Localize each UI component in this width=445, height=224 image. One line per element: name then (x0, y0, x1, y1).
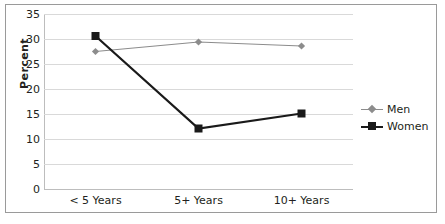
data-point-men (92, 48, 99, 55)
data-point-men (298, 42, 305, 49)
data-point-women (92, 32, 100, 40)
plot-area (44, 14, 353, 189)
y-tick-label: 10 (10, 134, 40, 145)
legend-label-women: Women (383, 120, 428, 133)
x-axis-tick-labels: < 5 Years5+ Years10+ Years (44, 195, 353, 211)
legend-marker-square-icon (361, 121, 383, 133)
y-tick-label: 15 (10, 109, 40, 120)
chart-legend: Men Women (361, 101, 436, 135)
y-tick-label: 35 (10, 9, 40, 20)
legend-item-women: Women (361, 118, 436, 135)
data-point-men (195, 38, 202, 45)
data-point-women (195, 125, 203, 133)
y-axis-tick-labels: 05101520253035 (6, 14, 40, 189)
series-line-women (96, 36, 302, 129)
legend-item-men: Men (361, 101, 436, 118)
legend-marker-diamond-icon (361, 104, 383, 116)
y-tick-label: 5 (10, 159, 40, 170)
y-tick-label: 30 (10, 34, 40, 45)
x-tick-label: 10+ Years (274, 195, 330, 207)
x-tick-label: < 5 Years (69, 195, 121, 207)
legend-label-men: Men (383, 103, 410, 116)
data-point-women (298, 110, 306, 118)
y-tick-label: 0 (10, 184, 40, 195)
x-tick-label: 5+ Years (174, 195, 223, 207)
series-plot (44, 14, 353, 189)
gridline (44, 189, 353, 190)
chart-figure: Percent 05101520253035 < 5 Years5+ Years… (5, 4, 437, 213)
y-tick-label: 20 (10, 84, 40, 95)
y-tick-label: 25 (10, 59, 40, 70)
